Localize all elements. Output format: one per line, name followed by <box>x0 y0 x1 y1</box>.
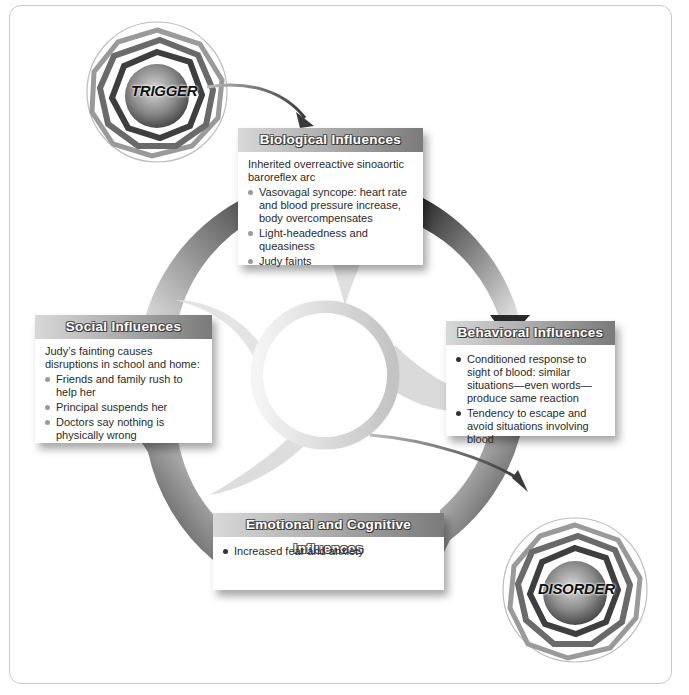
biological-influences-title: Biological Influences <box>238 128 423 152</box>
bullet-icon <box>223 549 228 554</box>
trigger-label: TRIGGER <box>131 82 197 99</box>
behavioral-list: Conditioned response to sight of blood: … <box>456 353 605 446</box>
list-item: Judy faints <box>248 255 413 268</box>
emotional-cognitive-influences-box: Emotional and Cognitive Influences Incre… <box>213 513 444 590</box>
social-list: Friends and family rush to help her Prin… <box>45 373 202 442</box>
bullet-icon <box>456 411 461 416</box>
list-item: Friends and family rush to help her <box>45 373 202 399</box>
disorder-arrow-head-icon <box>512 470 528 492</box>
social-intro: Judy’s fainting causes disruptions in sc… <box>45 345 202 371</box>
list-item: Doctors say nothing is physically wrong <box>45 416 202 442</box>
emotional-cognitive-influences-title: Emotional and Cognitive Influences <box>213 513 444 537</box>
list-item: Light-headedness and queasiness <box>248 227 413 253</box>
bullet-icon <box>45 405 50 410</box>
disorder-label: DISORDER <box>538 580 615 597</box>
list-item: Tendency to escape and avoid situations … <box>456 407 605 446</box>
bullet-icon <box>248 231 253 236</box>
emotional-list: Increased fear and anxiety <box>223 545 434 558</box>
behavioral-influences-box: Behavioral Influences Conditioned respon… <box>446 321 615 436</box>
trigger-arrow-head-icon <box>296 112 314 128</box>
bullet-icon <box>45 420 50 425</box>
list-item: Vasovagal syncope: heart rate and blood … <box>248 186 413 225</box>
biological-intro: Inherited overreactive sinoaortic barore… <box>248 158 413 184</box>
list-item: Conditioned response to sight of blood: … <box>456 353 605 405</box>
social-influences-title: Social Influences <box>35 315 212 339</box>
bullet-icon <box>456 357 461 362</box>
biological-list: Vasovagal syncope: heart rate and blood … <box>248 186 413 268</box>
list-item: Principal suspends her <box>45 401 202 414</box>
bullet-icon <box>248 259 253 264</box>
list-item: Increased fear and anxiety <box>223 545 434 558</box>
behavioral-influences-title: Behavioral Influences <box>446 321 615 345</box>
bullet-icon <box>248 190 253 195</box>
bullet-icon <box>45 377 50 382</box>
social-influences-box: Social Influences Judy’s fainting causes… <box>35 315 212 443</box>
biological-influences-box: Biological Influences Inherited overreac… <box>238 128 423 265</box>
